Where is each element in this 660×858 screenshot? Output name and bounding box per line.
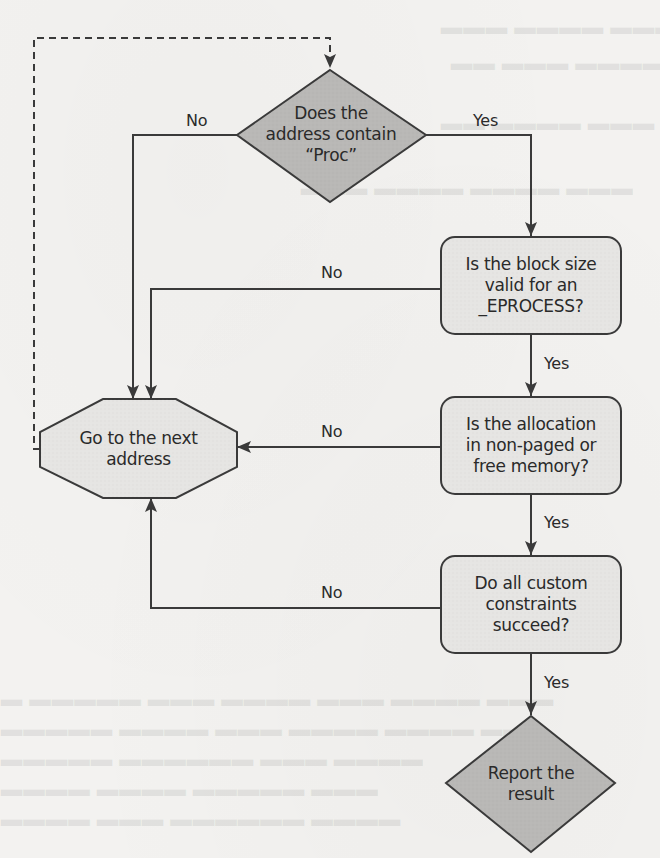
- next-address-label: Go to the next address: [40, 399, 237, 498]
- edge-start-yes: [426, 135, 531, 236]
- allocation-label: Is the allocation in non-paged or free m…: [441, 397, 621, 494]
- edge-constraints-no: [151, 498, 441, 608]
- edge-label-alloc-yes: Yes: [544, 514, 569, 532]
- block-size-label: Is the block size valid for an _EPROCESS…: [441, 237, 621, 334]
- edge-label-constraints-no: No: [321, 584, 342, 602]
- start-decision-label: Does the address contain “Proc”: [250, 100, 412, 168]
- report-result-label: Report the result: [470, 760, 592, 808]
- edge-label-start-no: No: [186, 112, 207, 130]
- edge-label-alloc-no: No: [321, 423, 342, 441]
- edge-label-block-no: No: [321, 264, 342, 282]
- edge-block-no: [151, 289, 441, 399]
- edge-label-start-yes: Yes: [473, 112, 498, 130]
- edge-label-constraints-yes: Yes: [544, 674, 569, 692]
- constraints-label: Do all custom constraints succeed?: [441, 556, 621, 653]
- edge-start-no: [133, 135, 237, 399]
- edge-label-block-yes: Yes: [544, 355, 569, 373]
